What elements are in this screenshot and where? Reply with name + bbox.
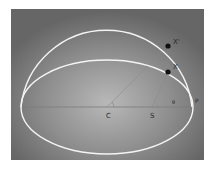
point-x-prime <box>165 43 170 48</box>
label-s: S <box>150 112 155 120</box>
point-x <box>165 69 170 74</box>
label-angle-focus: θ <box>172 99 175 105</box>
kepler-diagram: X' X P C S θ <box>0 0 215 177</box>
label-c: C <box>106 112 111 120</box>
label-x: X <box>173 63 178 71</box>
label-x-prime: X' <box>173 38 180 46</box>
label-p: P <box>195 97 199 104</box>
diagram-panel <box>11 9 204 160</box>
